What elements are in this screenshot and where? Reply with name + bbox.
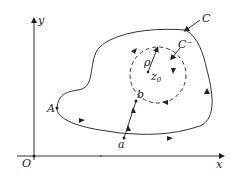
arrow-icon: [171, 68, 176, 74]
arrow-icon: [131, 48, 137, 54]
pointer-C: [186, 20, 200, 30]
label-a: a: [118, 138, 125, 151]
cut-segment-ab: [124, 101, 136, 138]
label-z0: z0: [150, 70, 162, 84]
point-A: [56, 107, 59, 110]
label-C-minus: C⁻: [178, 38, 192, 51]
label-A: A: [46, 102, 55, 115]
origin-label: O: [22, 157, 31, 170]
x-axis-label: x: [216, 158, 223, 171]
label-b: b: [137, 88, 144, 101]
arrow-icon: [79, 118, 85, 123]
center-z0-point: [147, 71, 150, 74]
contour-diagram: y x O C C⁻ ρ z0 A a b: [0, 0, 239, 181]
arrow-icon: [167, 136, 173, 141]
label-C: C: [202, 12, 211, 25]
label-rho: ρ: [143, 56, 151, 69]
origin-point: [33, 155, 36, 158]
arrow-icon: [204, 88, 210, 94]
y-axis-label: y: [37, 14, 45, 27]
